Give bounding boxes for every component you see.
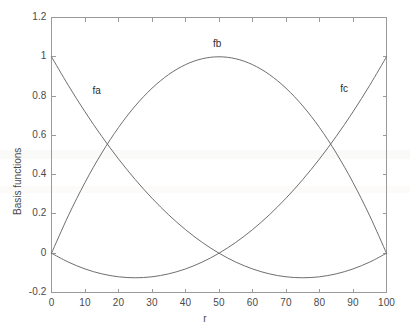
- y-tick-label: 0.6: [8, 129, 47, 140]
- x-tick-label: 100: [367, 297, 407, 308]
- y-tick-label: 1: [8, 50, 47, 61]
- axis-ticks: [52, 18, 387, 293]
- x-axis-title: r: [0, 313, 410, 324]
- axes-box: [52, 18, 387, 293]
- plot-svg: [0, 0, 410, 335]
- y-axis-title: Basis functions: [12, 148, 23, 215]
- curve-label-fb: fb: [213, 38, 221, 49]
- figure-canvas: -0.200.20.40.60.811.2 010203040506070809…: [0, 0, 410, 335]
- curve-label-fc: fc: [340, 83, 348, 94]
- data-curves: [52, 57, 387, 278]
- curve-label-fa: fa: [92, 85, 100, 96]
- y-tick-label: 0: [8, 247, 47, 258]
- curve-fa: [52, 57, 387, 278]
- curve-fb: [52, 57, 387, 253]
- curve-fc: [52, 57, 387, 278]
- plot-border: [52, 18, 387, 293]
- y-tick-label: 0.8: [8, 90, 47, 101]
- y-tick-label: 1.2: [8, 11, 47, 22]
- y-tick-label: -0.2: [8, 286, 47, 297]
